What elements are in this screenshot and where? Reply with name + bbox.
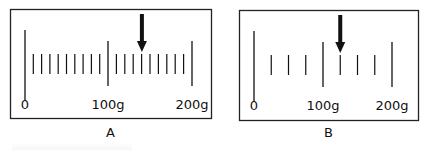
scale-panel-a: 0100g200gA [11, 10, 212, 141]
label-zero: 0 [250, 98, 258, 113]
panel-caption: B [324, 125, 333, 140]
pointer-arrow-icon [137, 41, 147, 52]
scale-panel-b: 0100g200gB [240, 11, 419, 141]
cut-off-text-fragment [12, 142, 132, 150]
pointer-arrow-shaft [140, 14, 144, 42]
label-zero: 0 [21, 97, 29, 112]
pointer-arrow-icon [335, 42, 345, 53]
label-200g: 200g [175, 97, 208, 112]
label-200g: 200g [375, 98, 408, 113]
label-100g: 100g [91, 97, 124, 112]
scale-figure: 0100g200gA 0100g200gB [0, 0, 432, 150]
panel-caption: A [106, 125, 115, 140]
pointer-arrow-shaft [338, 15, 342, 43]
label-100g: 100g [306, 98, 339, 113]
